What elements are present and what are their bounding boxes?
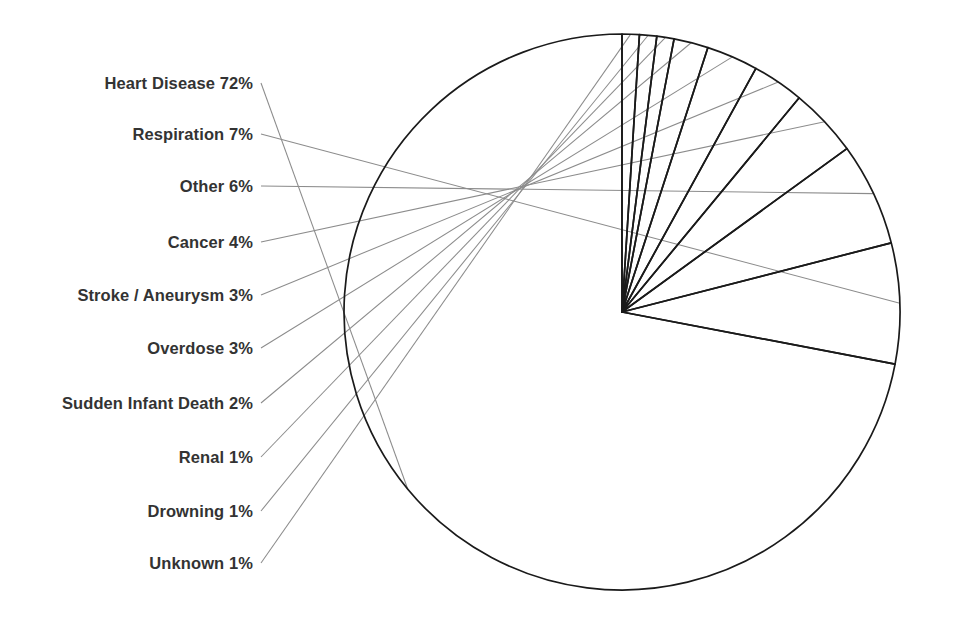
pie-label-heart-disease: Heart Disease 72% <box>0 74 253 93</box>
leader-line-drowning <box>261 35 648 511</box>
pie-slice-drowning[interactable] <box>622 35 657 312</box>
leader-line-sudden-infant-death <box>261 43 691 403</box>
leader-line-cancer <box>261 122 825 242</box>
pie-label-respiration: Respiration 7% <box>0 125 253 144</box>
leader-line-unknown <box>261 34 631 563</box>
pie-label-cancer: Cancer 4% <box>0 233 253 252</box>
pie-chart-figure: Heart Disease 72%Respiration 7%Other 6%C… <box>0 0 956 620</box>
pie-label-overdose: Overdose 3% <box>0 339 253 358</box>
leader-line-other <box>261 186 874 194</box>
leader-line-renal <box>261 37 665 457</box>
pie-slice-other[interactable] <box>622 149 891 312</box>
pie-label-unknown: Unknown 1% <box>0 554 253 573</box>
leader-line-respiration <box>261 134 900 303</box>
pie-label-renal: Renal 1% <box>0 448 253 467</box>
pie-label-stroke-aneurysm: Stroke / Aneurysm 3% <box>0 286 253 305</box>
pie-label-drowning: Drowning 1% <box>0 502 253 521</box>
pie-slice-overdose[interactable] <box>622 48 756 312</box>
pie-slice-heart-disease[interactable] <box>344 34 895 590</box>
pie-label-other: Other 6% <box>0 177 253 196</box>
pie-chart-svg <box>0 0 956 620</box>
leader-lines-group <box>261 34 900 563</box>
pie-label-sudden-infant-death: Sudden Infant Death 2% <box>0 394 253 413</box>
pie-slices-group <box>344 34 900 590</box>
